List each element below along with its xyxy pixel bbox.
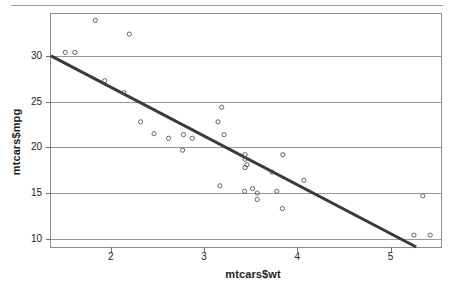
plot-frame-border [51, 14, 442, 248]
y-tick-label-20: 20 [18, 141, 42, 152]
x-tick-label-3: 3 [192, 251, 216, 262]
y-tick-label-30: 30 [18, 50, 42, 61]
y-tick-label-15: 15 [18, 187, 42, 198]
x-tick-label-4: 4 [285, 251, 309, 262]
x-tick-label-2: 2 [99, 251, 123, 262]
figure-page: mtcars$wt mtcars$mpg 2345 1015202530 [0, 0, 454, 291]
plot-canvas [0, 0, 454, 291]
x-tick-label-5: 5 [379, 251, 403, 262]
y-tick-label-10: 10 [18, 233, 42, 244]
plot-region [46, 14, 442, 253]
y-tick-label-25: 25 [18, 96, 42, 107]
x-axis-title: mtcars$wt [26, 268, 454, 280]
scatter-plot-figure: mtcars$wt mtcars$mpg 2345 1015202530 [0, 0, 454, 291]
